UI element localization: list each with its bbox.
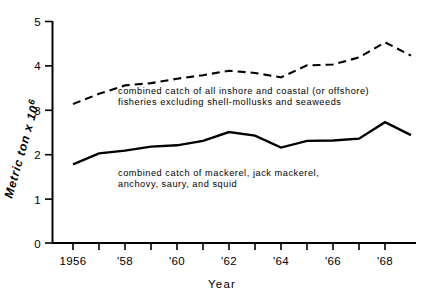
y-axis-ticks: [45, 22, 52, 244]
annotation-upper-line-2: fisheries excluding shell-mollusks and s…: [118, 97, 369, 108]
x-axis-ticks: [73, 243, 385, 250]
x-tick-label: '58: [117, 255, 133, 267]
x-tick-label: '64: [273, 255, 289, 267]
x-tick-label: '60: [169, 255, 185, 267]
annotation-upper-line-1: combined catch of all inshore and coasta…: [118, 86, 369, 97]
y-tick-label: 5: [34, 16, 41, 28]
x-tick-label: '68: [377, 255, 393, 267]
y-axis-tick-labels: 5 4 3 2 1 0: [34, 16, 41, 250]
x-tick-label: '62: [221, 255, 237, 267]
x-tick-label: 1956: [59, 255, 86, 267]
y-tick-label: 1: [34, 194, 41, 206]
x-axis-title: Year: [208, 278, 236, 290]
annotation-upper-series: combined catch of all inshore and coasta…: [118, 86, 369, 109]
y-axis-title-exponent: 6: [26, 97, 37, 106]
annotation-lower-line-2: anchovy, saury, and squid: [118, 179, 319, 190]
annotation-lower-line-1: combined catch of mackerel, jack mackere…: [118, 168, 319, 179]
annotation-lower-series: combined catch of mackerel, jack mackere…: [118, 168, 319, 191]
y-tick-label: 0: [34, 238, 41, 250]
y-tick-label: 4: [34, 60, 41, 72]
x-axis-tick-labels: 1956 '58 '60 '62 '64 '66 '68: [59, 255, 393, 267]
series-line-solid: [73, 122, 411, 164]
chart-plot-area: 5 4 3 2 1 0 1956 '58 '60: [0, 0, 432, 301]
y-tick-label: 2: [34, 149, 41, 161]
x-tick-label: '66: [325, 255, 341, 267]
chart-figure: 5 4 3 2 1 0 1956 '58 '60: [0, 0, 432, 301]
